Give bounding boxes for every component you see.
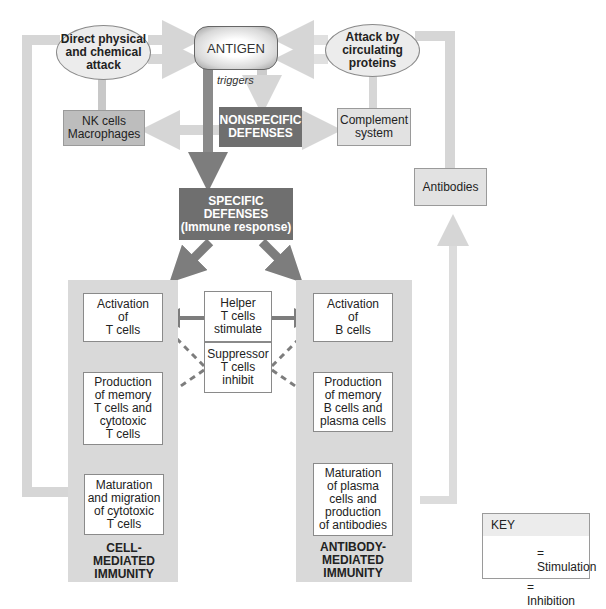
- key-title: KEY: [483, 514, 589, 536]
- antibody-mediated-caption: ANTIBODY-MEDIATEDIMMUNITY: [300, 541, 406, 580]
- circulating-attack-oval: Attack bycirculatingproteins: [325, 24, 420, 77]
- triggers-label: triggers: [217, 74, 254, 86]
- key-inhibition-label: = Inhibition: [527, 580, 583, 608]
- bcell-production-box: Productionof memoryB cells andplasma cel…: [313, 372, 393, 432]
- feedback-loop-right: [415, 36, 450, 188]
- specific-defenses-box: SPECIFICDEFENSES(Immune response): [179, 188, 293, 240]
- cell-mediated-caption: CELL-MEDIATEDIMMUNITY: [84, 542, 164, 581]
- arrow-antibody-to-antibodies: [420, 230, 453, 500]
- complement-system-box: Complementsystem: [337, 108, 411, 146]
- antigen-node: ANTIGEN: [194, 26, 278, 70]
- tcell-activation-box: ActivationofT cells: [83, 293, 163, 342]
- bcell-activation-box: ActivationofB cells: [313, 293, 393, 342]
- key-stimulation-label: = Stimulation: [537, 546, 596, 574]
- tcell-production-box: Productionof memoryT cells andcytotoxicT…: [83, 372, 163, 445]
- arrow-specific-cell: [182, 242, 210, 270]
- nonspecific-defenses-box: NONSPECIFICDEFENSES: [219, 107, 302, 147]
- suppressor-tcells-box: SuppressorT cellsinhibit: [204, 342, 272, 393]
- tcell-maturation-box: Maturationand migrationof cytotoxicT cel…: [84, 474, 164, 535]
- antibodies-box: Antibodies: [414, 168, 487, 206]
- nk-cells-box: NK cellsMacrophages: [63, 110, 145, 146]
- arrow-specific-antibody: [262, 242, 290, 270]
- direct-attack-oval: Direct physicaland chemicalattack: [56, 25, 151, 80]
- helper-tcells-box: HelperT cellsstimulate: [204, 291, 272, 342]
- legend-key: KEY = Stimulation = Inhibition: [482, 513, 590, 579]
- bcell-maturation-box: Maturationof plasmacells andproductionof…: [313, 463, 393, 536]
